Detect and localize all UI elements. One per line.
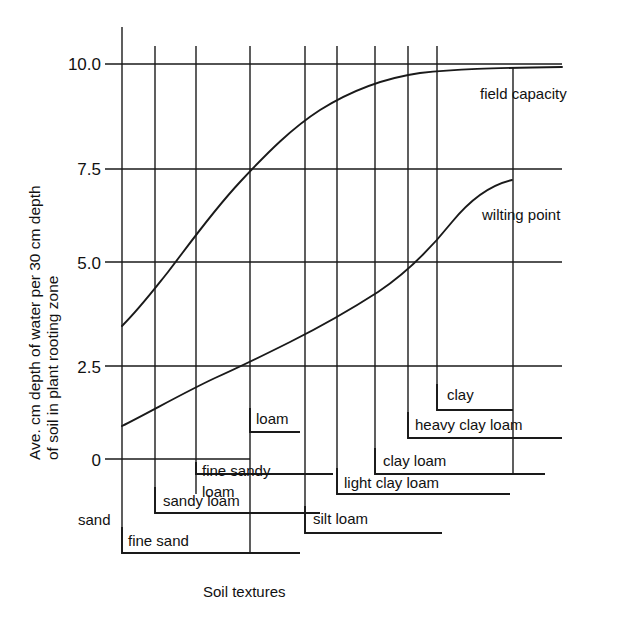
label-clay: clay: [447, 386, 474, 403]
curve-field-capacity: [122, 67, 562, 326]
y-tick-label-0: 0: [92, 451, 101, 470]
label-light-clay-loam: light clay loam: [344, 474, 439, 491]
curve-annotations: field capacity wilting point: [480, 85, 567, 223]
curve-label-field-capacity: field capacity: [480, 85, 567, 102]
chart-figure: 10.0 7.5 5.0 2.5 0 Ave. cm depth of wate…: [0, 0, 617, 618]
y-axis-title: Ave. cm depth of water per 30 cm depth o…: [26, 185, 61, 460]
label-sandy-loam: sandy loam: [163, 492, 240, 509]
label-heavy-clay-loam: heavy clay loam: [415, 416, 523, 433]
label-silt-loam: silt loam: [313, 510, 368, 527]
label-clay-loam: clay loam: [383, 452, 446, 469]
curve-label-wilting-point: wilting point: [481, 206, 561, 223]
label-fine-sandy: fine sandy: [202, 462, 271, 479]
label-fine-sand: fine sand: [128, 532, 189, 549]
soil-texture-brackets: clay heavy clay loam clay loam light cla…: [78, 384, 562, 553]
y-axis-tick-labels: 10.0 7.5 5.0 2.5 0: [68, 55, 101, 470]
y-tick-label-10: 10.0: [68, 55, 101, 74]
x-axis-title: Soil textures: [203, 583, 286, 600]
y-tick-label-7-5: 7.5: [77, 160, 101, 179]
y-tick-label-5-0: 5.0: [77, 254, 101, 273]
data-curves: [122, 67, 562, 426]
soil-water-chart: 10.0 7.5 5.0 2.5 0 Ave. cm depth of wate…: [0, 0, 617, 618]
y-axis-title-line1: Ave. cm depth of water per 30 cm depth: [26, 185, 43, 460]
label-loam: loam: [256, 410, 289, 427]
label-sand: sand: [78, 511, 111, 528]
y-tick-label-2-5: 2.5: [77, 358, 101, 377]
y-axis-title-line2: of soil in plant rooting zone: [44, 276, 61, 460]
